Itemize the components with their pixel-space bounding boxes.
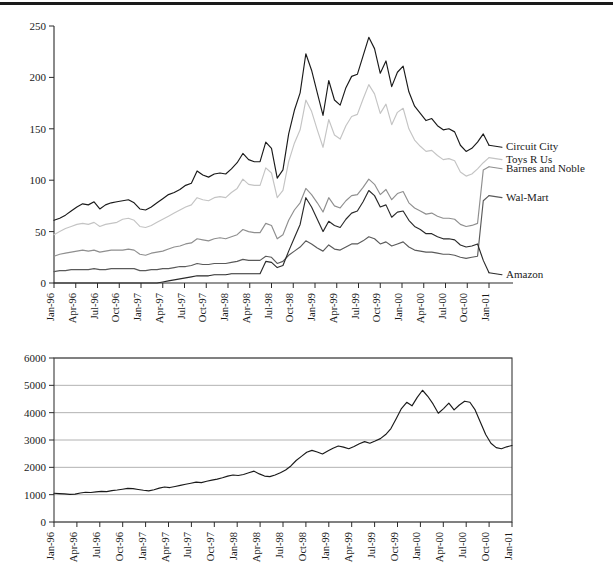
bottom-y-axis-ticks: 0100020003000400050006000 — [24, 352, 54, 528]
top-x-tick-label: Oct-97 — [197, 293, 208, 322]
top-series-label-4: Amazon — [506, 268, 544, 280]
bottom-x-tick-label: Jul-99 — [366, 532, 377, 558]
top-y-tick-label: 0 — [41, 277, 47, 289]
bottom-x-tick-label: Oct-96 — [114, 532, 125, 561]
bottom-x-tick-label: Oct-98 — [297, 532, 308, 561]
top-series-label-3: Wal-Mart — [506, 191, 549, 203]
top-y-tick-label: 150 — [30, 123, 47, 135]
bottom-series-line — [54, 390, 512, 494]
top-x-tick-label: Oct-98 — [284, 293, 295, 322]
bottom-y-tick-label: 5000 — [24, 379, 47, 391]
top-x-tick-label: Oct-00 — [458, 293, 469, 322]
bottom-y-tick-label: 6000 — [24, 352, 47, 364]
bottom-line-chart: 0100020003000400050006000 Jan-96Apr-96Ju… — [0, 340, 613, 574]
top-series-line-1 — [54, 85, 489, 235]
bottom-x-tick-label: Jul-98 — [274, 532, 285, 558]
bottom-gridlines — [54, 358, 512, 522]
header-divider-rule — [0, 2, 613, 5]
top-x-tick-label: Oct-96 — [110, 293, 121, 322]
top-x-tick-label: Apr-96 — [67, 293, 78, 323]
bottom-x-tick-label: Jan-96 — [45, 532, 56, 560]
top-series-label-2: Barnes and Noble — [506, 162, 585, 174]
top-x-tick-label: Jan-98 — [219, 293, 230, 321]
top-x-tick-label: Apr-00 — [415, 293, 426, 323]
bottom-x-tick-label: Apr-97 — [160, 532, 171, 562]
top-x-tick-label: Jul-97 — [176, 293, 187, 319]
bottom-x-tick-label: Jan-01 — [503, 532, 514, 560]
bottom-x-tick-label: Apr-99 — [343, 532, 354, 562]
top-x-tick-label: Jul-98 — [263, 293, 274, 319]
top-series-leader-1 — [489, 158, 502, 160]
top-series-leader-3 — [489, 196, 502, 198]
top-y-tick-label: 50 — [35, 226, 47, 238]
top-series-line-3 — [54, 196, 489, 272]
bottom-chart-canvas: 0100020003000400050006000 Jan-96Apr-96Ju… — [0, 340, 613, 574]
bottom-x-tick-label: Jul-97 — [182, 532, 193, 558]
bottom-x-tick-label: Oct-97 — [205, 532, 216, 561]
bottom-x-tick-label: Jul-00 — [457, 532, 468, 558]
bottom-x-tick-label: Jul-96 — [91, 532, 102, 558]
bottom-x-axis-ticks: Jan-96Apr-96Jul-96Oct-96Jan-97Apr-97Jul-… — [45, 522, 514, 562]
top-axes — [54, 26, 513, 283]
bottom-y-tick-label: 4000 — [24, 407, 47, 419]
top-series-line-0 — [54, 37, 489, 220]
bottom-x-tick-label: Jan-98 — [228, 532, 239, 560]
top-x-tick-label: Jul-00 — [437, 293, 448, 319]
top-y-tick-label: 100 — [30, 174, 47, 186]
top-x-axis-ticks: Jan-96Apr-96Jul-96Oct-96Jan-97Apr-97Jul-… — [45, 283, 491, 323]
top-x-tick-label: Apr-99 — [328, 293, 339, 323]
top-series-label-0: Circuit City — [506, 140, 559, 152]
bottom-x-tick-label: Jan-97 — [137, 532, 148, 560]
top-y-axis-ticks: 050100150200250 — [30, 20, 55, 289]
top-x-tick-label: Oct-99 — [371, 293, 382, 322]
bottom-x-tick-label: Oct-00 — [480, 532, 491, 561]
bottom-x-tick-label: Jan-00 — [411, 532, 422, 560]
bottom-x-tick-label: Apr-98 — [251, 532, 262, 562]
top-x-tick-label: Jan-01 — [480, 293, 491, 321]
bottom-y-tick-label: 2000 — [24, 461, 47, 473]
top-series-labels: Circuit CityToys R UsBarnes and NobleWal… — [489, 140, 585, 280]
top-x-tick-label: Jan-96 — [45, 293, 56, 321]
top-x-tick-label: Jul-99 — [350, 293, 361, 319]
top-x-tick-label: Apr-98 — [241, 293, 252, 323]
top-x-tick-label: Jan-00 — [393, 293, 404, 321]
bottom-x-tick-label: Apr-00 — [434, 532, 445, 562]
bottom-series-line-0 — [54, 390, 512, 494]
top-chart-canvas: 050100150200250 Jan-96Apr-96Jul-96Oct-96… — [0, 8, 613, 338]
bottom-y-tick-label: 0 — [41, 516, 47, 528]
top-series-leader-0 — [489, 145, 502, 147]
bottom-x-tick-label: Oct-99 — [389, 532, 400, 561]
top-line-chart: 050100150200250 Jan-96Apr-96Jul-96Oct-96… — [0, 8, 613, 338]
top-y-tick-label: 250 — [30, 20, 47, 32]
top-x-tick-label: Apr-97 — [154, 293, 165, 323]
top-x-tick-label: Jul-96 — [89, 293, 100, 319]
bottom-x-tick-label: Apr-96 — [68, 532, 79, 562]
bottom-y-tick-label: 3000 — [24, 434, 47, 446]
top-series-lines — [54, 37, 489, 283]
top-series-line-2 — [54, 167, 489, 256]
top-series-leader-2 — [489, 167, 502, 169]
top-x-tick-label: Jan-99 — [306, 293, 317, 321]
bottom-x-tick-label: Jan-99 — [320, 532, 331, 560]
top-series-leader-4 — [489, 273, 502, 275]
top-x-tick-label: Jan-97 — [132, 293, 143, 321]
top-y-tick-label: 200 — [30, 71, 47, 83]
bottom-y-tick-label: 1000 — [24, 489, 47, 501]
